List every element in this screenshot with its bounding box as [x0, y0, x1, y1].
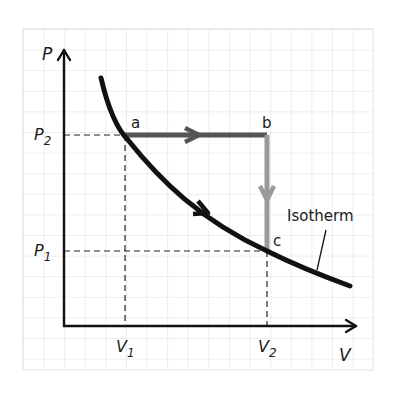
point-a-label: a [131, 114, 140, 132]
point-c-label: c [273, 232, 281, 250]
point-b-label: b [262, 114, 272, 132]
grid-background [23, 29, 373, 370]
x-axis-label: V [339, 345, 352, 365]
y-axis-label: P [42, 44, 53, 64]
isotherm-label: Isotherm [287, 207, 354, 225]
pv-diagram: P V P2 P1 V1 V2 a b c Isotherm [0, 0, 393, 393]
